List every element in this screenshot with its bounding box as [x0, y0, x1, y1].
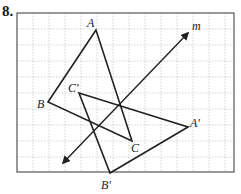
line-m-label: m [192, 19, 201, 33]
grid-lines [17, 13, 234, 172]
grid-frame [17, 13, 234, 172]
triangle-abc [48, 30, 132, 141]
triangle-abc-labels: ABC [37, 16, 140, 155]
vertex-label-b: B [37, 97, 45, 111]
vertex-label-a: A [86, 16, 95, 30]
vertex-label-c-prime: C' [68, 81, 79, 95]
reflection-diagram: m ABC A'B'C' [0, 0, 241, 194]
vertex-label-a-prime: A' [189, 116, 200, 130]
vertex-label-c: C [131, 141, 140, 155]
vertex-label-b-prime: B' [101, 178, 111, 192]
triangle-a-prime-b-prime-c-prime [79, 93, 188, 173]
